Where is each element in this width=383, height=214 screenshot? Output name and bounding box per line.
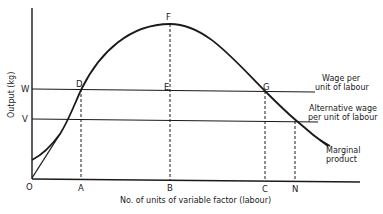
tick-A: A (78, 183, 84, 193)
x-axis (32, 179, 360, 182)
point-F: F (166, 12, 171, 22)
tick-W: W (21, 84, 30, 94)
wage-annotation-line2: unit of labour (315, 83, 369, 92)
point-E: E (164, 82, 169, 92)
tick-N: N (292, 184, 298, 194)
point-D: D (76, 79, 83, 89)
curve-annotation-line1: Marginal (326, 146, 360, 155)
tick-V: V (22, 114, 28, 124)
wage-line (32, 89, 315, 92)
marginal-product-diagram: Output (kg) W V O A B C N D E F G No. of… (0, 0, 383, 214)
x-axis-label: No. of units of variable factor (labour) (120, 196, 271, 205)
wage-annotation-line1: Wage per (322, 74, 361, 83)
tick-C: C (262, 184, 268, 194)
curve-annotation-line2: product (326, 155, 357, 164)
point-G: G (263, 82, 270, 92)
alternative-wage-line (32, 119, 318, 122)
alt-wage-annotation-line2: per unit of labour (308, 113, 378, 122)
origin-label: O (26, 182, 33, 192)
alt-wage-annotation-line1: Alternative wage (309, 104, 377, 113)
y-axis-label: Output (kg) (7, 72, 16, 118)
tick-B: B (167, 183, 173, 193)
